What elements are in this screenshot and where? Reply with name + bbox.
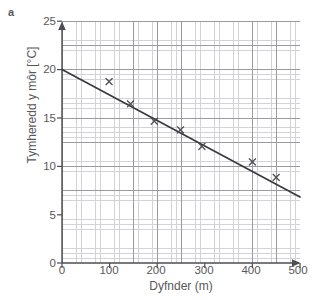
data-marker	[106, 79, 112, 85]
x-axis-ticks	[62, 263, 300, 268]
data-markers	[106, 79, 279, 181]
y-axis-ticks	[57, 21, 62, 263]
chart-overlay	[0, 0, 314, 300]
chart-figure: a 25 20 15 10 5 0 0 100 200 300 400 500 …	[0, 0, 314, 300]
data-marker	[177, 127, 183, 133]
data-marker	[273, 174, 279, 180]
data-marker	[249, 159, 255, 165]
axis-lines	[62, 23, 299, 263]
trendline	[62, 70, 300, 198]
